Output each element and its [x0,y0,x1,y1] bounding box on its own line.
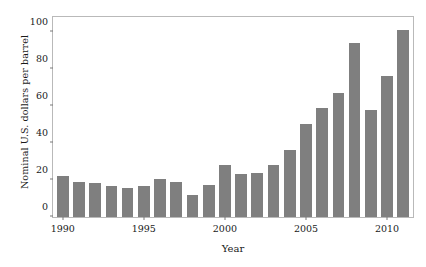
bar [251,173,263,217]
plot-inner: 02040608010019901995200020052010 [53,17,413,217]
x-axis-tick-mark [387,217,388,220]
y-axis-tick-label: 60 [36,89,53,100]
bar [170,182,182,217]
y-axis-tick-label: 100 [30,15,53,26]
bar [333,93,345,217]
bar [73,182,85,217]
x-axis-tick-mark [62,217,63,220]
bar [122,188,134,217]
y-axis-tick-mark [50,141,53,142]
y-axis-tick-label: 40 [36,126,53,137]
bar [57,176,69,217]
x-axis-tick-mark [224,217,225,220]
bar [138,186,150,217]
bar [203,185,215,217]
bar [397,30,409,217]
y-axis-title: Nominal U.S. dollars per barrel [16,12,34,212]
y-axis-tick-mark [50,104,53,105]
y-axis-tick-mark [50,67,53,68]
bar [235,174,247,217]
y-axis-tick-mark [50,30,53,31]
x-axis-tick-mark [305,217,306,220]
y-axis-tick-label: 20 [36,163,53,174]
bar [300,124,312,217]
bar [381,76,393,217]
bar [349,43,361,217]
y-axis-tick-label: 0 [42,201,53,212]
bar [106,186,118,217]
bar [316,108,328,217]
bar [365,110,377,217]
bar [219,165,231,217]
x-axis-tick-mark [143,217,144,220]
bar [284,150,296,217]
plot-area: 02040608010019901995200020052010 [52,16,414,218]
y-axis-tick-label: 80 [36,52,53,63]
bar [268,165,280,217]
bar [187,195,199,217]
bar [154,179,166,217]
bar [89,183,101,217]
x-axis-title: Year [52,243,414,254]
y-axis-tick-mark [50,178,53,179]
bar-chart: Nominal U.S. dollars per barrel 02040608… [0,0,426,267]
